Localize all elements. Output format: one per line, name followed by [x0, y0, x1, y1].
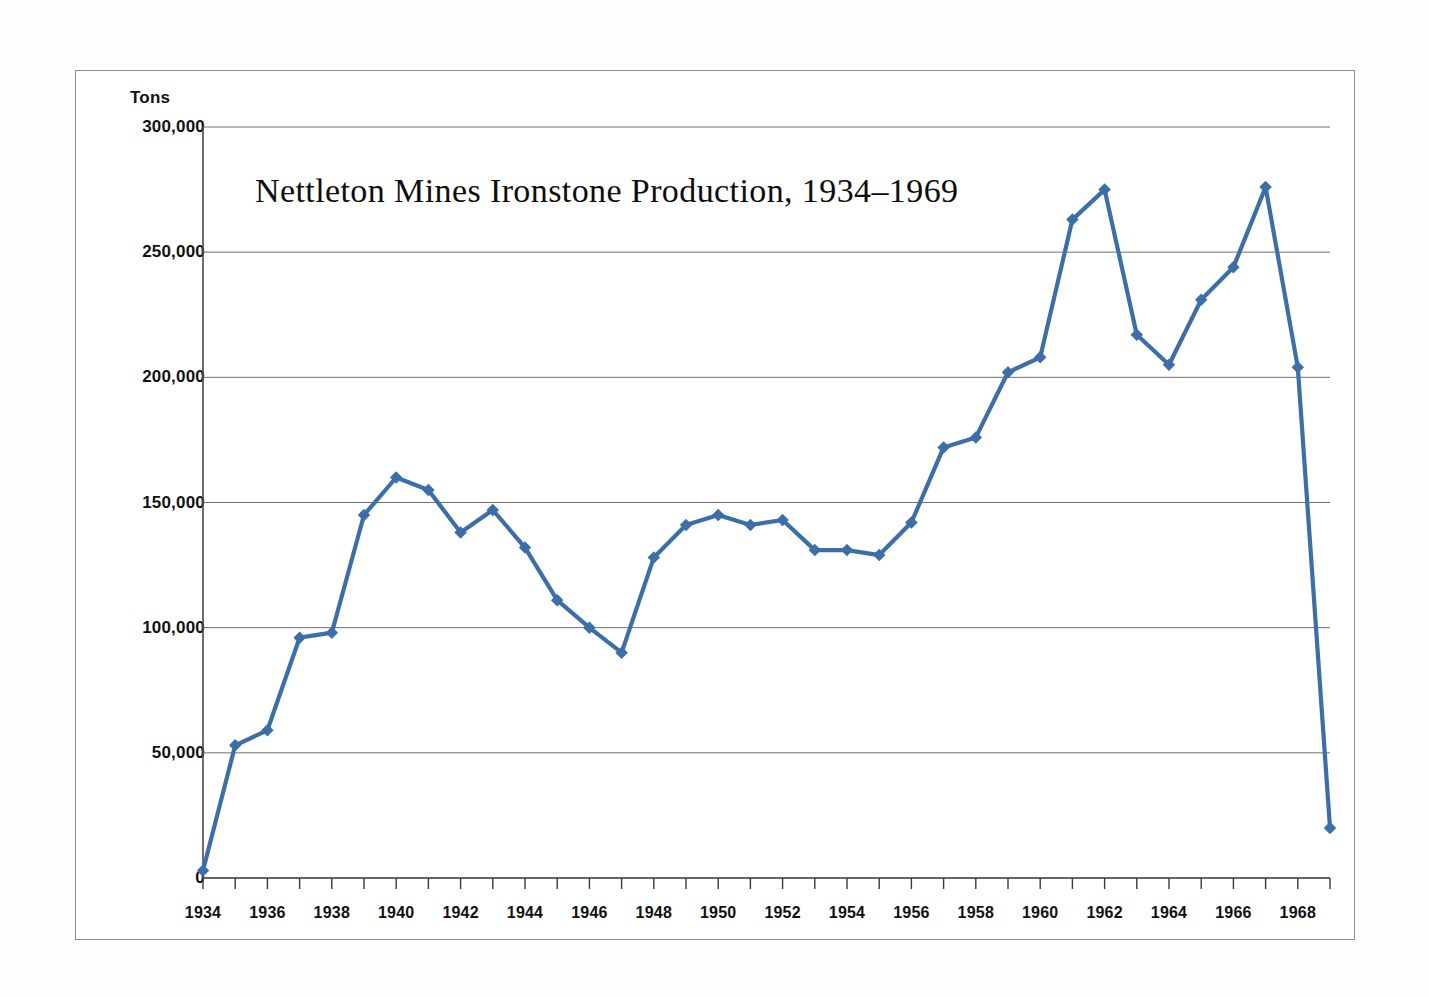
- x-tick-label-1936: 1936: [249, 904, 285, 922]
- x-tick-label-1950: 1950: [700, 904, 736, 922]
- scanned-page: Tons 300,000250,000200,000150,000100,000…: [0, 0, 1429, 997]
- x-tick-label-1942: 1942: [442, 904, 478, 922]
- chart-title: Nettleton Mines Ironstone Production, 19…: [255, 172, 958, 210]
- x-tick-label-1946: 1946: [571, 904, 607, 922]
- x-tick-label-1966: 1966: [1215, 904, 1251, 922]
- x-tick-label-1956: 1956: [893, 904, 929, 922]
- x-tick-label-1962: 1962: [1086, 904, 1122, 922]
- x-axis-tick-labels: 1934193619381940194219441946194819501952…: [0, 0, 1429, 997]
- x-tick-label-1960: 1960: [1022, 904, 1058, 922]
- x-tick-label-1958: 1958: [958, 904, 994, 922]
- x-tick-label-1952: 1952: [764, 904, 800, 922]
- x-tick-label-1948: 1948: [636, 904, 672, 922]
- x-tick-label-1954: 1954: [829, 904, 865, 922]
- x-tick-label-1934: 1934: [185, 904, 221, 922]
- x-tick-label-1940: 1940: [378, 904, 414, 922]
- x-tick-label-1938: 1938: [314, 904, 350, 922]
- x-tick-label-1964: 1964: [1151, 904, 1187, 922]
- x-tick-label-1944: 1944: [507, 904, 543, 922]
- x-tick-label-1968: 1968: [1280, 904, 1316, 922]
